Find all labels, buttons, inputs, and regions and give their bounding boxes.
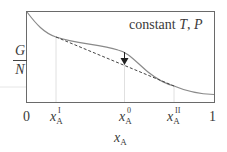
x-tick-xII: xIIA bbox=[167, 110, 180, 124]
x-tick-0: 0 bbox=[23, 110, 30, 124]
annotation-label: constant T, P bbox=[129, 18, 203, 32]
x-tick-xI: xIA bbox=[50, 110, 63, 124]
common-tangent-line bbox=[56, 37, 174, 86]
x-tick-x0: x0A bbox=[119, 110, 132, 124]
y-label-denominator: N bbox=[12, 63, 28, 77]
y-label-numerator: G bbox=[12, 44, 28, 58]
fraction-bar bbox=[13, 60, 27, 61]
y-axis-label: G N bbox=[12, 44, 28, 77]
x-axis-label: xA bbox=[114, 131, 127, 145]
x-tick-1: 1 bbox=[209, 110, 216, 124]
